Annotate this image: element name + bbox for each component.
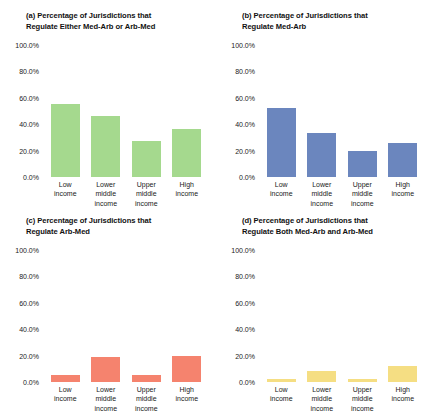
panel-c-ytick: 80.0% bbox=[19, 273, 39, 280]
panel-c-ytick: 100.0% bbox=[15, 247, 39, 254]
panel-d-ytick: 100.0% bbox=[231, 247, 255, 254]
panel-c-ytick: 40.0% bbox=[19, 326, 39, 333]
panel-d-ytick: 0.0% bbox=[239, 379, 255, 386]
panel-c-plot-area bbox=[45, 250, 207, 382]
panel-c-y-axis: 0.0%20.0%40.0%60.0%80.0%100.0% bbox=[0, 250, 42, 382]
bar bbox=[51, 104, 80, 177]
bar bbox=[172, 129, 201, 177]
bar-slot bbox=[167, 250, 208, 382]
panel-b-y-axis: 0.0%20.0%40.0%60.0%80.0%100.0% bbox=[216, 45, 258, 177]
panel-a: (a) Percentage of Jurisdictions that Reg… bbox=[0, 0, 216, 205]
panel-c-xtick: Upper middle income bbox=[126, 385, 167, 413]
panel-a-ytick: 40.0% bbox=[19, 121, 39, 128]
panel-d-bars bbox=[261, 250, 423, 382]
bar-slot bbox=[126, 45, 167, 177]
bar-slot bbox=[342, 45, 383, 177]
panel-c-ytick: 0.0% bbox=[23, 379, 39, 386]
bar bbox=[132, 141, 161, 177]
panel-d-title: (d) Percentage of Jurisdictions that Reg… bbox=[242, 215, 422, 237]
panel-d-plot-area bbox=[261, 250, 423, 382]
panel-b-ytick: 60.0% bbox=[235, 94, 255, 101]
panel-c-x-axis: Low incomeLower middle incomeUpper middl… bbox=[45, 385, 207, 413]
panel-b-bars bbox=[261, 45, 423, 177]
bar bbox=[172, 356, 201, 382]
bar bbox=[307, 371, 336, 382]
panel-b-ytick: 20.0% bbox=[235, 147, 255, 154]
bar-slot bbox=[261, 250, 302, 382]
panel-a-plot-area bbox=[45, 45, 207, 177]
panel-a-ytick: 20.0% bbox=[19, 147, 39, 154]
panel-c-bars bbox=[45, 250, 207, 382]
bar bbox=[91, 357, 120, 382]
panel-d-xtick: Lower middle income bbox=[302, 385, 343, 413]
panel-b-title: (b) Percentage of Jurisdictions that Reg… bbox=[242, 10, 422, 32]
panel-b-ytick: 80.0% bbox=[235, 68, 255, 75]
panel-c-xtick: High income bbox=[167, 385, 208, 413]
bar-slot bbox=[383, 45, 424, 177]
panel-d-ytick: 40.0% bbox=[235, 326, 255, 333]
panel-c: (c) Percentage of Jurisdictions that Reg… bbox=[0, 205, 216, 410]
panel-a-ytick: 80.0% bbox=[19, 68, 39, 75]
panel-d-x-axis: Low incomeLower middle incomeUpper middl… bbox=[261, 385, 423, 413]
panel-a-ytick: 100.0% bbox=[15, 42, 39, 49]
bar-slot bbox=[45, 250, 86, 382]
bar bbox=[348, 379, 377, 382]
panel-b-ytick: 0.0% bbox=[239, 174, 255, 181]
bar-slot bbox=[261, 45, 302, 177]
bar-slot bbox=[383, 250, 424, 382]
panel-a-ytick: 0.0% bbox=[23, 174, 39, 181]
bar bbox=[267, 379, 296, 382]
panel-a-ytick: 60.0% bbox=[19, 94, 39, 101]
bar bbox=[348, 151, 377, 177]
bar bbox=[267, 108, 296, 177]
bar bbox=[51, 375, 80, 382]
panel-b-ytick: 100.0% bbox=[231, 42, 255, 49]
bar bbox=[388, 366, 417, 382]
panel-d-xtick: Upper middle income bbox=[342, 385, 383, 413]
panel-d-y-axis: 0.0%20.0%40.0%60.0%80.0%100.0% bbox=[216, 250, 258, 382]
panel-b: (b) Percentage of Jurisdictions that Reg… bbox=[216, 0, 432, 205]
panel-a-bars bbox=[45, 45, 207, 177]
panel-d-xtick: Low income bbox=[261, 385, 302, 413]
panel-c-xtick: Lower middle income bbox=[86, 385, 127, 413]
bar-slot bbox=[167, 45, 208, 177]
bar-slot bbox=[45, 45, 86, 177]
panel-d: (d) Percentage of Jurisdictions that Reg… bbox=[216, 205, 432, 410]
panel-a-y-axis: 0.0%20.0%40.0%60.0%80.0%100.0% bbox=[0, 45, 42, 177]
panel-c-title: (c) Percentage of Jurisdictions that Reg… bbox=[26, 215, 206, 237]
panel-c-ytick: 60.0% bbox=[19, 299, 39, 306]
bar-slot bbox=[302, 45, 343, 177]
bar-slot bbox=[86, 45, 127, 177]
bar bbox=[91, 116, 120, 177]
bar-slot bbox=[342, 250, 383, 382]
bar bbox=[388, 143, 417, 177]
panel-d-ytick: 60.0% bbox=[235, 299, 255, 306]
bar bbox=[307, 133, 336, 177]
panel-d-xtick: High income bbox=[383, 385, 424, 413]
panel-c-ytick: 20.0% bbox=[19, 352, 39, 359]
panel-d-ytick: 80.0% bbox=[235, 273, 255, 280]
bar-slot bbox=[86, 250, 127, 382]
bar-slot bbox=[126, 250, 167, 382]
panel-b-plot-area bbox=[261, 45, 423, 177]
panel-a-title: (a) Percentage of Jurisdictions that Reg… bbox=[26, 10, 206, 32]
bar-slot bbox=[302, 250, 343, 382]
panel-d-ytick: 20.0% bbox=[235, 352, 255, 359]
panel-c-xtick: Low income bbox=[45, 385, 86, 413]
bar bbox=[132, 375, 161, 382]
panel-b-ytick: 40.0% bbox=[235, 121, 255, 128]
